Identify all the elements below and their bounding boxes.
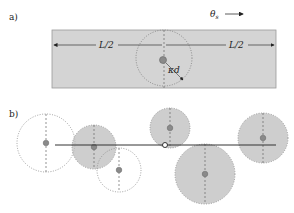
particle-circle bbox=[150, 108, 190, 148]
probe-marker bbox=[163, 143, 168, 148]
radius-label: κd bbox=[167, 65, 180, 75]
figure: a) θs L/2 L/2 κd b) bbox=[0, 0, 294, 213]
particle-circle bbox=[238, 113, 288, 163]
panel-b-label: b) bbox=[9, 109, 18, 119]
particle bbox=[160, 57, 167, 64]
flow-direction: θs bbox=[210, 9, 243, 20]
particle-circle bbox=[175, 144, 235, 204]
particle-center bbox=[260, 135, 266, 141]
half-length-right-label: L/2 bbox=[228, 40, 244, 50]
particle-circles bbox=[17, 108, 288, 204]
particle-circle bbox=[17, 114, 75, 172]
particle-center bbox=[43, 140, 49, 146]
particle-center bbox=[167, 125, 173, 131]
particle-center bbox=[116, 167, 122, 173]
half-length-left-label: L/2 bbox=[98, 40, 114, 50]
particle-circle bbox=[72, 125, 116, 169]
particle-center bbox=[202, 171, 208, 177]
panel-a-label: a) bbox=[9, 12, 18, 22]
flow-label: θs bbox=[210, 9, 219, 20]
particle-circle bbox=[97, 148, 141, 192]
